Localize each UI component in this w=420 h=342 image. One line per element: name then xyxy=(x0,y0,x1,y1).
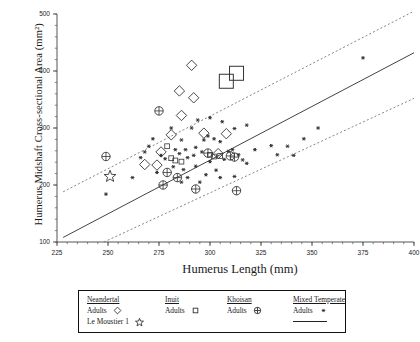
scatter-plot: 225250275300325350375400100200300400500 xyxy=(0,0,420,262)
svg-text:400: 400 xyxy=(39,67,50,74)
legend-header-0: Neandertal xyxy=(87,295,165,306)
legend-entry-3-1 xyxy=(293,317,365,322)
legend-grid: NeandertalInuitKhoisanMixed TemperateAdu… xyxy=(87,295,337,328)
svg-text:375: 375 xyxy=(358,249,369,256)
svg-text:400: 400 xyxy=(409,249,420,256)
svg-text:300: 300 xyxy=(39,124,50,131)
axis-ticks: 225250275300325350375400100200300400500 xyxy=(39,10,420,256)
x-axis-title: Humerus Length (mm) xyxy=(122,262,297,276)
svg-text:100: 100 xyxy=(39,238,50,245)
legend-entry-0-0: Adults xyxy=(87,306,165,317)
prediction-bands xyxy=(63,11,414,242)
series-mixed-temperate-adults xyxy=(104,56,365,196)
legend-marker-open-star-icon xyxy=(135,318,144,327)
legend-column-1: Adults xyxy=(165,306,227,328)
legend-entry-label: Adults xyxy=(227,306,247,317)
series-inuit-adults xyxy=(165,144,223,164)
legend-column-3: Adults xyxy=(293,306,365,328)
legend-header-2: Khoisan xyxy=(227,295,293,306)
legend-marker-asterisk-icon xyxy=(319,306,328,315)
legend-entry-3-0: Adults xyxy=(293,306,365,317)
svg-text:225: 225 xyxy=(52,249,63,256)
legend-entry-2-0: Adults xyxy=(227,306,293,317)
legend-entry-0-1: Le Moustier 1 xyxy=(87,317,165,328)
legend-marker-crossed-circle-icon xyxy=(253,306,262,315)
legend-entry-1-0: Adults xyxy=(165,306,227,317)
legend-marker-small-open-square-icon xyxy=(191,306,200,315)
series-le-moustier-1 xyxy=(104,170,116,181)
legend-marker-open-diamond-icon xyxy=(113,306,122,315)
svg-text:325: 325 xyxy=(256,249,267,256)
svg-text:250: 250 xyxy=(103,249,114,256)
legend-entry-label: Adults xyxy=(165,306,185,317)
legend-box: NeandertalInuitKhoisanMixed TemperateAdu… xyxy=(78,290,346,333)
data-points xyxy=(102,56,365,196)
svg-text:200: 200 xyxy=(39,181,50,188)
svg-text:500: 500 xyxy=(39,10,50,17)
axes xyxy=(57,14,414,242)
legend-column-0: Adults Le Moustier 1 xyxy=(87,306,165,328)
svg-text:350: 350 xyxy=(307,249,318,256)
legend-entry-label: Adults xyxy=(87,306,107,317)
legend-column-2: Adults xyxy=(227,306,293,328)
x-axis-title-wrap: Humerus Length (mm) xyxy=(0,262,420,277)
series-neandertal-specimens-large-squares- xyxy=(219,66,243,88)
svg-text:300: 300 xyxy=(205,249,216,256)
legend-entry-label: Le Moustier 1 xyxy=(87,317,129,328)
legend-header-1: Inuit xyxy=(165,295,227,306)
legend-header-3: Mixed Temperate xyxy=(293,295,365,306)
svg-text:275: 275 xyxy=(154,249,165,256)
legend-entry-label: Adults xyxy=(293,306,313,317)
chart-root: Humerus Midshaft Cross-sectional Area (m… xyxy=(0,0,420,342)
